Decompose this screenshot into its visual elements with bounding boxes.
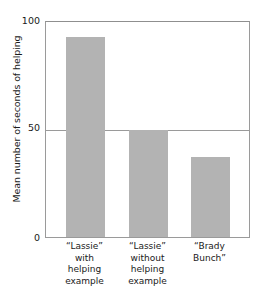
bar-lassie-without-helping-example xyxy=(129,130,168,238)
bars-layer xyxy=(46,22,249,237)
bar-chart-figure: Mean number of seconds of helping 100 50… xyxy=(0,0,266,292)
y-tick-label-0: 0 xyxy=(14,233,44,243)
x-tick-label-2: “Brady Bunch” xyxy=(173,241,246,264)
bar-slot-1 xyxy=(129,22,168,237)
x-axis-tick-labels: “Lassie” with helping example “Lassie” w… xyxy=(45,241,250,291)
y-axis-tick-labels: 100 50 0 xyxy=(14,0,44,292)
plot-area xyxy=(45,21,250,238)
y-tick-label-50: 50 xyxy=(14,123,44,133)
bar-slot-0 xyxy=(66,22,105,237)
bar-lassie-with-helping-example xyxy=(66,37,105,237)
bar-slot-2 xyxy=(191,22,230,237)
y-tick-label-100: 100 xyxy=(14,16,44,26)
bar-brady-bunch xyxy=(191,157,230,237)
